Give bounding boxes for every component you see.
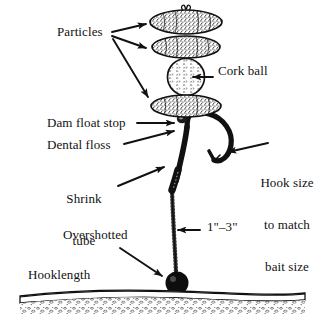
particle-bait-top	[150, 10, 222, 34]
arrow-to-overshotted-shot	[120, 248, 162, 276]
label-overshotted: Overshotted	[63, 228, 128, 242]
label-hook-size-line3: bait size	[255, 260, 319, 274]
particle-bait-second	[152, 36, 220, 58]
particle-bait-bottom	[151, 95, 221, 117]
label-dental-floss: Dental floss	[47, 138, 111, 152]
label-dam-float-stop: Dam float stop	[47, 116, 126, 130]
arrow-to-particle-top	[112, 24, 146, 32]
label-shrink-tube-line1: Shrink	[53, 192, 115, 206]
label-cork-ball: Cork ball	[218, 64, 268, 78]
arrow-to-dental-floss	[124, 131, 174, 144]
label-hook-size-line1: Hook size	[255, 176, 319, 190]
fishing-rig-diagram: Particles Cork ball Dam float stop Denta…	[0, 0, 321, 323]
label-particles: Particles	[57, 25, 103, 39]
arrow-to-shrink-tube	[118, 167, 164, 186]
label-hook-size-line2: to match	[255, 218, 319, 232]
label-hook-size: Hook size to match bait size	[255, 148, 319, 302]
label-shrink-tube: Shrink tube	[53, 164, 115, 276]
shrink-tube	[172, 170, 178, 190]
hooklength-line	[172, 190, 176, 272]
label-hooklength: Hooklength	[28, 268, 90, 282]
label-measurement: 1"–3"	[207, 220, 238, 234]
bait-stack	[150, 5, 222, 117]
